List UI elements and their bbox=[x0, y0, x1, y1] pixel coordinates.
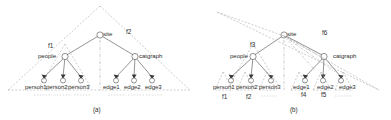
panel-a-label-person1: person1 bbox=[25, 84, 47, 90]
panel-b-graphics bbox=[195, 0, 391, 120]
panel-a-nodes bbox=[42, 32, 155, 83]
panel-a-label-people: people bbox=[38, 53, 56, 59]
panel-a-label-person2: person2 bbox=[46, 84, 68, 90]
panel-a-label-site: site bbox=[103, 31, 112, 37]
panel-a-label-edge3: edge3 bbox=[145, 84, 162, 90]
panel-b-label-catgraph: catgraph bbox=[333, 53, 356, 59]
panel-b-label-edge2: edge2 bbox=[317, 84, 334, 90]
panel-b-fragment-rays bbox=[284, 36, 335, 90]
panel-b-label-person3: person3 bbox=[259, 84, 281, 90]
panel-a-caption: (a) bbox=[93, 107, 101, 113]
panel-b-fragment-label-f2: f2 bbox=[246, 94, 251, 100]
panel-b-fragment-label-f6: f6 bbox=[322, 30, 327, 36]
panel-b-label-person2: person2 bbox=[236, 84, 258, 90]
panel-b-fragment-label-f4: f4 bbox=[301, 92, 306, 98]
panel-a-label-person3: person3 bbox=[68, 84, 90, 90]
panel-b-label-site: site bbox=[287, 31, 296, 37]
figure-container: site people catgraph person1 person2 per… bbox=[0, 0, 391, 120]
panel-b-label-edge3: edge3 bbox=[339, 84, 356, 90]
panel-b-label-person1: person1 bbox=[213, 84, 235, 90]
panel-b-label-people: people bbox=[230, 53, 248, 59]
panel-a-label-edge2: edge2 bbox=[124, 84, 141, 90]
panel-a-arrowheads bbox=[42, 74, 155, 79]
panel-b-fragment-label-f3: f3 bbox=[250, 42, 255, 48]
panel-a-fragment-f2-outline bbox=[8, 6, 190, 90]
node-people bbox=[62, 53, 68, 59]
panel-a-fragment-label-f1: f1 bbox=[48, 43, 53, 49]
panel-b-fragment-label-f5: f5 bbox=[321, 92, 326, 98]
panel-a-fragment-label-f2: f2 bbox=[126, 29, 131, 35]
node-people bbox=[250, 53, 256, 59]
node-catgraph bbox=[132, 53, 138, 59]
panel-b-fragment-label-f1: f1 bbox=[222, 94, 227, 100]
node-catgraph bbox=[321, 53, 327, 59]
panel-a-label-catgraph: catgraph bbox=[139, 53, 162, 59]
panel-b-label-edge1: edge1 bbox=[293, 84, 310, 90]
panel-b-arrowheads bbox=[229, 74, 344, 79]
panel-b-caption: (b) bbox=[290, 107, 298, 113]
panel-a-graphics bbox=[0, 0, 196, 120]
panel-a-label-edge1: edge1 bbox=[103, 84, 120, 90]
